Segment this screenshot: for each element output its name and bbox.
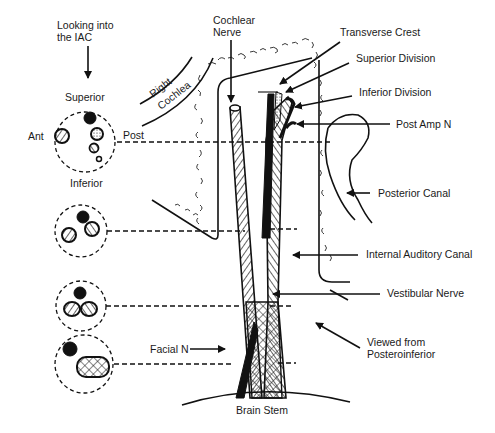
svg-text:Vestibular Nerve: Vestibular Nerve [387,287,464,299]
viewed-from-label: Viewed from Posteroinferior [316,323,436,360]
svg-text:Transverse Crest: Transverse Crest [340,26,420,38]
inferior-vestibular-section [90,144,99,153]
svg-text:Cochlear: Cochlear [213,14,256,26]
inferior-label: Inferior [70,177,103,189]
post-amp-n-label: Post Amp N [297,118,451,130]
cochlear-nerve-label: Cochlear Nerve [213,14,256,102]
cochlear-nerve-section [55,129,69,143]
iac-posterior-wall [319,60,350,282]
posterior-canal-label: Posterior Canal [347,187,450,199]
post-amp-section [97,157,102,162]
svg-text:Posteroinferior: Posteroinferior [367,348,436,360]
vestibular-nerve-label: Vestibular Nerve [273,287,464,299]
svg-text:Nerve: Nerve [213,26,241,38]
internal-auditory-canal-label: Internal Auditory Canal [293,248,472,260]
facial-nerve-section [84,112,96,124]
svg-text:Superior Division: Superior Division [356,52,436,64]
cross-section-level-3 [56,281,106,331]
inferior-division-label: Inferior Division [295,86,432,107]
facial-n-label: Facial N [150,343,225,355]
svg-text:Facial N: Facial N [150,343,189,355]
right-cochlea: Right Cochlea [140,57,213,126]
cross-section-level-4 [55,335,113,393]
ant-label: Ant [28,130,44,142]
svg-text:Looking into: Looking into [57,19,114,31]
svg-text:Inferior Division: Inferior Division [359,86,432,98]
merged-nerve-segment [246,302,282,398]
svg-text:the IAC: the IAC [57,31,92,43]
svg-text:Viewed from: Viewed from [367,336,425,348]
cross-section-level-2 [55,205,107,257]
looking-into-iac-label: Looking into the IAC [57,19,114,78]
svg-text:Internal Auditory Canal: Internal Auditory Canal [366,248,472,260]
svg-text:Posterior Canal: Posterior Canal [378,187,450,199]
superior-vestibular-section [91,128,103,140]
posterior-canal [328,115,372,223]
post-label: Post [123,129,144,141]
cross-section-level-1 [55,112,115,172]
superior-label: Superior [65,91,105,103]
brain-stem-label: Brain Stem [236,404,288,416]
iac-anatomy-diagram: Looking into the IAC Superior Inferior A… [0,0,495,433]
svg-text:Post Amp N: Post Amp N [396,118,451,130]
